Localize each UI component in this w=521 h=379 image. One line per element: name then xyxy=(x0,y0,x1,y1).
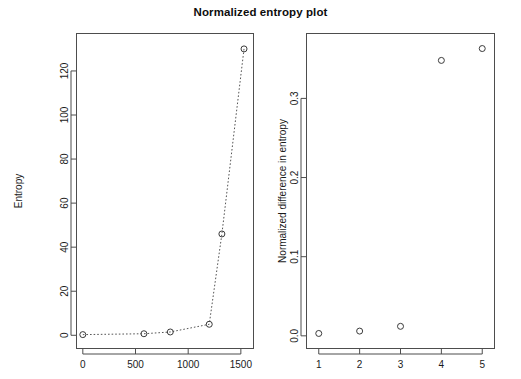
right-y-axis: 0.00.10.20.3 xyxy=(290,91,307,343)
x-axis-tick-label: 500 xyxy=(127,359,144,370)
data-point-marker xyxy=(438,57,444,63)
right-y-axis-label: Normalized difference in entropy xyxy=(277,119,288,263)
x-axis-tick-label: 5 xyxy=(479,359,485,370)
data-point-marker xyxy=(479,46,485,52)
y-axis-tick-label: 0 xyxy=(60,332,71,338)
x-axis-tick-label: 0 xyxy=(80,359,86,370)
data-point-marker xyxy=(398,323,404,329)
x-axis-tick-label: 1 xyxy=(316,359,322,370)
data-line xyxy=(83,49,244,335)
data-point-marker xyxy=(357,328,363,334)
left-panel-svg: 020406080100120 050010001500 Entropy xyxy=(0,0,268,379)
left-y-axis-label: Entropy xyxy=(13,174,24,208)
y-axis-tick-label: 100 xyxy=(60,106,71,123)
right-data-series xyxy=(316,46,485,337)
x-axis-tick-label: 1500 xyxy=(230,359,253,370)
left-panel: 020406080100120 050010001500 Entropy xyxy=(0,0,268,379)
figure-canvas: Normalized entropy plot 020406080100120 … xyxy=(0,0,521,379)
y-axis-tick-label: 0.3 xyxy=(290,91,301,105)
x-axis-tick-label: 1000 xyxy=(177,359,200,370)
left-y-axis: 020406080100120 xyxy=(60,62,77,338)
y-axis-tick-label: 40 xyxy=(60,241,71,253)
x-axis-tick-label: 4 xyxy=(439,359,445,370)
y-axis-tick-label: 60 xyxy=(60,197,71,209)
y-axis-tick-label: 0.1 xyxy=(290,249,301,263)
y-axis-tick-label: 0.2 xyxy=(290,170,301,184)
x-axis-tick-label: 3 xyxy=(398,359,404,370)
left-data-series xyxy=(80,46,247,338)
y-axis-tick-label: 0.0 xyxy=(290,328,301,342)
right-panel: 0.00.10.20.3 12345 Normalized difference… xyxy=(268,0,521,379)
y-axis-tick-label: 20 xyxy=(60,285,71,297)
left-plot-frame xyxy=(77,34,254,349)
right-panel-svg: 0.00.10.20.3 12345 Normalized difference… xyxy=(268,0,521,379)
y-axis-tick-label: 80 xyxy=(60,153,71,165)
data-point-marker xyxy=(316,330,322,336)
x-axis-tick-label: 2 xyxy=(357,359,363,370)
left-x-axis: 050010001500 xyxy=(80,349,252,370)
right-plot-frame xyxy=(307,34,495,349)
right-x-axis: 12345 xyxy=(316,349,485,370)
y-axis-tick-label: 120 xyxy=(60,62,71,79)
